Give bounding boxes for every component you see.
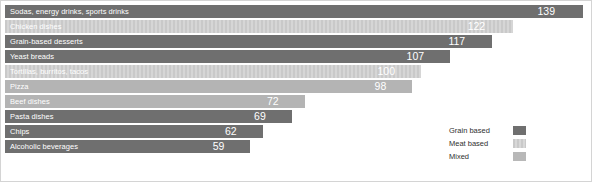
table-row: Tortillas, burritos, tacos 100 [5,65,587,78]
table-row: Sodas, energy drinks, sports drinks 139 [5,5,587,18]
bar-7[interactable]: Pasta dishes [5,110,292,123]
legend-item-grain-based: Grain based [449,125,541,136]
bar-4[interactable]: Tortillas, burritos, tacos [5,65,421,78]
plot-area: Sodas, energy drinks, sports drinks 139 … [5,5,587,177]
bar-2[interactable]: Grain-based desserts [5,35,492,48]
bar-label-4: Tortillas, burritos, tacos [10,65,88,78]
bar-6[interactable]: Beef dishes [5,95,305,108]
table-row: Pasta dishes 69 [5,110,587,123]
bar-label-3: Yeast breads [10,50,54,63]
legend-item-mixed: Mixed [449,151,541,162]
bar-label-8: Chips [10,125,29,138]
bar-0[interactable]: Sodas, energy drinks, sports drinks [5,5,583,18]
chart-legend: Grain based Meat based Mixed [449,125,541,164]
bar-value-0: 139 [538,4,556,19]
bar-value-2: 117 [448,34,465,49]
legend-label-grain-based: Grain based [449,125,513,136]
bar-value-6: 72 [267,94,279,109]
table-row: Pizza 98 [5,80,587,93]
bar-label-7: Pasta dishes [10,110,54,123]
bar-value-5: 98 [375,79,387,94]
bar-label-2: Grain-based desserts [10,35,83,48]
bar-chart: Sodas, energy drinks, sports drinks 139 … [0,0,592,182]
bar-label-0: Sodas, energy drinks, sports drinks [10,5,129,18]
legend-swatch-grain-based [513,126,526,135]
bar-label-6: Beef dishes [10,95,50,108]
table-row: Beef dishes 72 [5,95,587,108]
legend-swatch-meat-based [513,139,526,148]
bar-label-9: Alcoholic beverages [10,140,78,153]
bar-value-7: 69 [254,109,266,124]
bar-value-4: 100 [377,64,395,79]
bar-label-1: Chicken dishes [10,20,62,33]
legend-label-mixed: Mixed [449,151,513,162]
bar-3[interactable]: Yeast breads [5,50,450,63]
legend-item-meat-based: Meat based [449,138,541,149]
bar-value-8: 62 [225,124,237,139]
bar-5[interactable]: Pizza [5,80,412,93]
table-row: Chicken dishes 122 [5,20,587,33]
bar-value-9: 59 [213,139,225,154]
legend-label-meat-based: Meat based [449,138,513,149]
table-row: Grain-based desserts 117 [5,35,587,48]
bar-1[interactable]: Chicken dishes [5,20,513,33]
bar-value-3: 107 [407,49,425,64]
bar-label-5: Pizza [10,80,29,93]
legend-swatch-mixed [513,152,526,161]
bar-value-1: 122 [468,19,486,34]
table-row: Yeast breads 107 [5,50,587,63]
